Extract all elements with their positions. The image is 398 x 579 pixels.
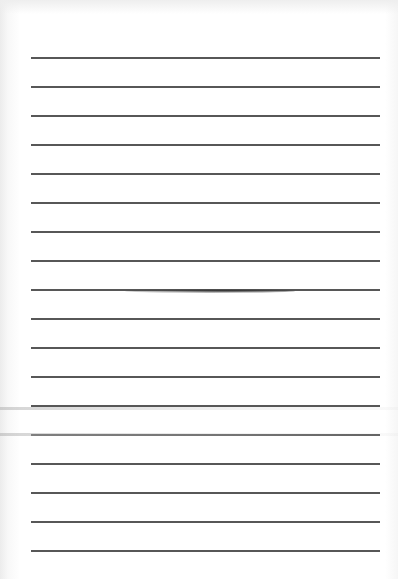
ruled-line xyxy=(31,144,380,146)
ruled-line xyxy=(31,260,380,262)
ruled-line xyxy=(31,463,380,465)
ruled-line xyxy=(31,347,380,349)
ruled-line xyxy=(31,318,380,320)
fold-crease xyxy=(0,407,398,410)
ruled-line xyxy=(31,173,380,175)
scan-shadow-top xyxy=(0,0,398,14)
ruled-line xyxy=(31,231,380,233)
ruled-line xyxy=(31,492,380,494)
ruled-line xyxy=(31,202,380,204)
ruled-line xyxy=(31,115,380,117)
ruled-line xyxy=(31,521,380,523)
ruled-line xyxy=(31,57,380,59)
fold-crease xyxy=(0,433,398,436)
lined-paper-sheet xyxy=(0,0,398,579)
ruled-line xyxy=(31,86,380,88)
ruled-line xyxy=(31,550,380,552)
ruled-line xyxy=(31,376,380,378)
ink-smudge xyxy=(125,289,295,293)
